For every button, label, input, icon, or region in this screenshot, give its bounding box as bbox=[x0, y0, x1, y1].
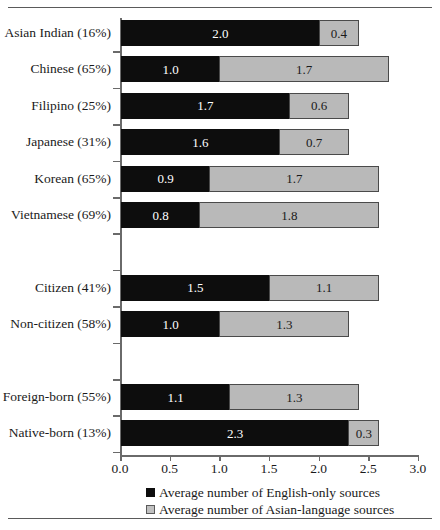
bar-segment-english-only: 1.5 bbox=[121, 275, 270, 301]
bar-segment-asian-language: 1.3 bbox=[219, 311, 349, 337]
stacked-bar: 1.60.7 bbox=[121, 129, 349, 155]
bar-segment-asian-language: 1.7 bbox=[219, 56, 389, 82]
y-axis-tick bbox=[113, 415, 120, 417]
category-label: Korean (65%) bbox=[0, 166, 111, 192]
x-axis-tick-label: 3.0 bbox=[395, 461, 440, 477]
y-axis-tick bbox=[113, 306, 120, 308]
y-axis-tick bbox=[113, 124, 120, 126]
bar-value-label: 1.3 bbox=[286, 390, 302, 403]
category-label: Citizen (41%) bbox=[0, 275, 111, 301]
chart-figure: 0.00.51.01.52.02.53.0 Asian Indian (16%)… bbox=[0, 0, 440, 530]
y-axis-tick bbox=[113, 379, 120, 381]
bar-segment-english-only: 1.0 bbox=[121, 56, 220, 82]
bar-segment-english-only: 2.3 bbox=[121, 420, 349, 446]
y-axis-tick bbox=[113, 161, 120, 163]
chart-legend: Average number of English-only sourcesAv… bbox=[0, 484, 440, 518]
bar-segment-asian-language: 0.3 bbox=[348, 420, 379, 446]
legend-swatch-black-square-icon bbox=[146, 488, 155, 497]
bar-value-label: 0.3 bbox=[356, 426, 372, 439]
category-label: Japanese (31%) bbox=[0, 129, 111, 155]
bar-value-label: 1.5 bbox=[187, 281, 203, 294]
stacked-bar: 1.51.1 bbox=[121, 275, 379, 301]
bar-value-label: 2.3 bbox=[227, 426, 243, 439]
bar-value-label: 1.3 bbox=[276, 317, 292, 330]
y-axis-tick bbox=[113, 343, 120, 345]
bar-segment-asian-language: 0.7 bbox=[279, 129, 350, 155]
x-axis-tick-label: 1.5 bbox=[246, 461, 292, 477]
bar-value-label: 1.7 bbox=[296, 62, 312, 75]
bar-segment-english-only: 0.9 bbox=[121, 166, 210, 192]
chart-row: Japanese (31%)1.60.7 bbox=[0, 129, 440, 155]
bar-value-label: 1.7 bbox=[197, 99, 213, 112]
bar-value-label: 0.4 bbox=[331, 26, 347, 39]
bar-segment-asian-language: 1.8 bbox=[199, 202, 379, 228]
legend-label: Average number of English-only sources bbox=[159, 485, 380, 501]
bar-value-label: 1.0 bbox=[163, 317, 179, 330]
category-label: Vietnamese (69%) bbox=[0, 202, 111, 228]
category-label: Native-born (13%) bbox=[0, 420, 111, 446]
bar-value-label: 1.6 bbox=[192, 135, 208, 148]
bar-value-label: 1.1 bbox=[316, 281, 332, 294]
chart-row: Citizen (41%)1.51.1 bbox=[0, 275, 440, 301]
chart-row: Filipino (25%)1.70.6 bbox=[0, 93, 440, 119]
stacked-bar: 1.01.7 bbox=[121, 56, 389, 82]
y-axis-tick bbox=[113, 197, 120, 199]
x-axis-tick-label: 1.0 bbox=[196, 461, 242, 477]
chart-row: Korean (65%)0.91.7 bbox=[0, 166, 440, 192]
chart-row: Vietnamese (69%)0.81.8 bbox=[0, 202, 440, 228]
bar-segment-english-only: 1.6 bbox=[121, 129, 280, 155]
bar-value-label: 0.8 bbox=[153, 208, 169, 221]
bar-value-label: 1.1 bbox=[167, 390, 183, 403]
bar-value-label: 1.8 bbox=[281, 208, 297, 221]
y-axis-tick bbox=[113, 452, 120, 454]
bottom-divider-rule bbox=[8, 518, 432, 519]
plot-area: 0.00.51.01.52.02.53.0 Asian Indian (16%)… bbox=[0, 0, 440, 470]
x-axis-tick-label: 2.5 bbox=[345, 461, 391, 477]
bar-value-label: 2.0 bbox=[212, 26, 228, 39]
bar-value-label: 0.9 bbox=[158, 172, 174, 185]
x-axis-tick-label: 0.5 bbox=[147, 461, 193, 477]
category-label: Foreign-born (55%) bbox=[0, 384, 111, 410]
stacked-bar: 0.91.7 bbox=[121, 166, 379, 192]
bar-segment-english-only: 1.1 bbox=[121, 384, 230, 410]
legend-item: Average number of English-only sources bbox=[0, 484, 440, 501]
x-axis-tick-label: 0.0 bbox=[97, 461, 143, 477]
stacked-bar: 1.01.3 bbox=[121, 311, 349, 337]
stacked-bar: 2.00.4 bbox=[121, 20, 359, 46]
category-label: Non-citizen (58%) bbox=[0, 311, 111, 337]
bar-segment-english-only: 1.7 bbox=[121, 93, 290, 119]
y-axis-tick bbox=[113, 51, 120, 53]
category-label: Filipino (25%) bbox=[0, 93, 111, 119]
bar-segment-english-only: 2.0 bbox=[121, 20, 320, 46]
category-label: Chinese (65%) bbox=[0, 56, 111, 82]
chart-row: Asian Indian (16%)2.00.4 bbox=[0, 20, 440, 46]
stacked-bar: 1.70.6 bbox=[121, 93, 349, 119]
bar-segment-asian-language: 1.3 bbox=[229, 384, 359, 410]
y-axis-tick bbox=[113, 88, 120, 90]
bar-segment-asian-language: 0.4 bbox=[319, 20, 360, 46]
chart-row: Foreign-born (55%)1.11.3 bbox=[0, 384, 440, 410]
y-axis-tick bbox=[113, 233, 120, 235]
legend-item: Average number of Asian-language sources bbox=[0, 501, 440, 518]
stacked-bar: 2.30.3 bbox=[121, 420, 379, 446]
bar-segment-asian-language: 0.6 bbox=[289, 93, 350, 119]
bar-value-label: 1.0 bbox=[163, 62, 179, 75]
y-axis-tick bbox=[113, 270, 120, 272]
bar-segment-asian-language: 1.7 bbox=[209, 166, 379, 192]
category-label: Asian Indian (16%) bbox=[0, 20, 111, 46]
bar-segment-asian-language: 1.1 bbox=[269, 275, 379, 301]
legend-swatch-gray-square-icon bbox=[146, 505, 155, 514]
bar-segment-english-only: 1.0 bbox=[121, 311, 220, 337]
bar-value-label: 0.7 bbox=[306, 135, 322, 148]
bar-value-label: 1.7 bbox=[286, 172, 302, 185]
chart-row: Native-born (13%)2.30.3 bbox=[0, 420, 440, 446]
stacked-bar: 1.11.3 bbox=[121, 384, 359, 410]
chart-row: Non-citizen (58%)1.01.3 bbox=[0, 311, 440, 337]
stacked-bar: 0.81.8 bbox=[121, 202, 379, 228]
x-axis-tick-label: 2.0 bbox=[296, 461, 342, 477]
chart-row: Chinese (65%)1.01.7 bbox=[0, 56, 440, 82]
bar-segment-english-only: 0.8 bbox=[121, 202, 200, 228]
legend-label: Average number of Asian-language sources bbox=[159, 502, 394, 518]
bar-value-label: 0.6 bbox=[311, 99, 327, 112]
